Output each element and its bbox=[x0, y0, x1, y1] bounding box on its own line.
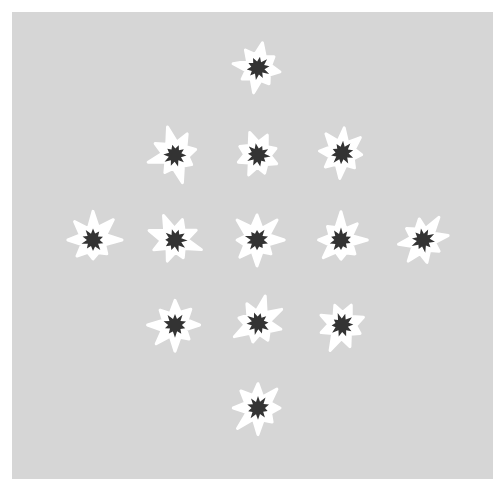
star-icon bbox=[223, 373, 293, 443]
star-icon bbox=[222, 205, 292, 275]
star-icon bbox=[223, 288, 293, 358]
star-icon bbox=[140, 205, 210, 275]
star-icon bbox=[223, 120, 293, 190]
star-icon bbox=[223, 33, 293, 103]
star-icon bbox=[306, 205, 376, 275]
star-icon bbox=[140, 120, 210, 190]
star-icon bbox=[388, 205, 458, 275]
star-icon bbox=[58, 205, 128, 275]
star-icon bbox=[307, 290, 377, 360]
star-icon bbox=[307, 118, 377, 188]
star-icon bbox=[140, 290, 210, 360]
